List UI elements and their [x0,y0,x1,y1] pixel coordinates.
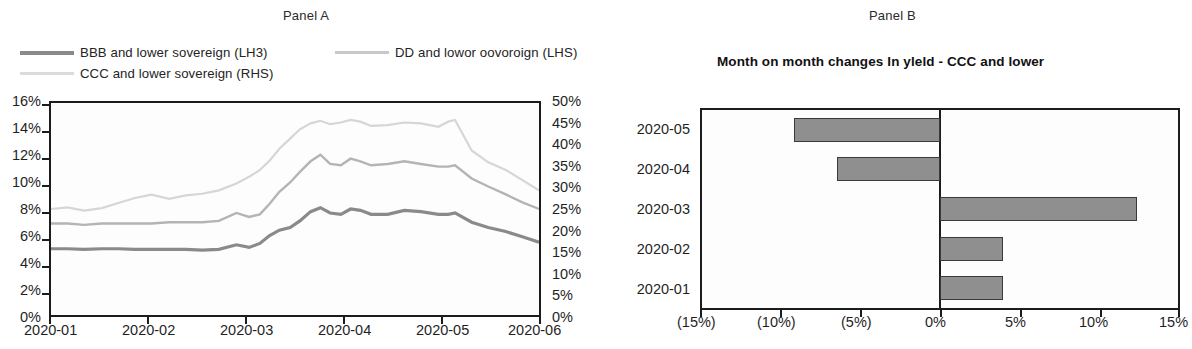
xb-tick-10: 10% [1079,314,1108,330]
right-tick-50: 50% [552,94,581,109]
panel-a-left-axis: 16% 14% 12% 10% 8% 6% 4% 2% 0% [0,94,44,326]
cat-label-2020-03: 2020-03 [637,202,690,217]
legend-swatch-ccc-icon [20,72,74,75]
panel-b-category-axis: 2020-05 2020-04 2020-03 2020-02 2020-01 [620,108,698,310]
panel-a-label: Panel A [283,8,329,23]
right-tick-30: 30% [552,180,581,195]
panel-b-plot-area [700,108,1180,310]
x-tick-2020-05: 2020-05 [416,322,469,338]
panel-b-x-axis: (15%) (10%) (5%) 0% 5% 10% 15% [620,314,1192,340]
bar-2020-04 [837,157,940,181]
panel-a-lines [51,103,539,315]
left-tick-6: 6% [20,229,41,244]
left-tick-14: 14% [12,121,41,136]
x-tick-2020-06: 2020-06 [508,322,561,338]
left-tick-12: 12% [12,148,41,163]
xb-tick-5: 5% [1005,314,1026,330]
panel-b-title: Month on month changes In yleld - CCC an… [717,54,1044,69]
right-tick-10: 10% [552,267,581,282]
series-line-ccc [51,120,539,211]
left-tick-2: 2% [20,283,41,298]
x-tick-2020-02: 2020-02 [122,322,175,338]
bar-2020-05 [794,118,940,142]
xb-tick-neg5: (5%) [841,314,872,330]
x-tick-2020-01: 2020-01 [24,322,77,338]
series-line-bbb [51,208,539,250]
legend-label-ccc: CCC and lower sovereign (RHS) [80,66,273,81]
cat-label-2020-05: 2020-05 [637,122,690,137]
x-tick-2020-04: 2020-04 [318,322,371,338]
legend-swatch-bb-icon [335,51,389,54]
legend-label-bbb: BBB and lower sovereign (LH3) [80,45,268,60]
xb-tick-neg15: (15%) [677,314,716,330]
left-tick-16: 16% [12,94,41,109]
right-tick-5: 5% [552,288,573,303]
panel-a-plot-area [49,101,541,317]
legend-swatch-bbb-icon [20,51,74,55]
panel-a-right-axis: 50% 45% 40% 35% 30% 25% 20% 15% 10% 5% 0… [547,94,597,326]
bar-2020-01 [940,276,1003,300]
panel-b-label: Panel B [869,8,916,23]
legend-item-bb: DD and lowor oovoroign (LHS) [335,45,577,60]
legend-label-bb: DD and lowor oovoroign (LHS) [395,45,577,60]
right-tick-35: 35% [552,159,581,174]
xb-tick-neg10: (10%) [757,314,796,330]
right-tick-40: 40% [552,137,581,152]
bar-2020-03 [940,197,1137,221]
right-tick-45: 45% [552,116,581,131]
right-tick-20: 20% [552,224,581,239]
cat-label-2020-02: 2020-02 [637,242,690,257]
left-tick-10: 10% [12,175,41,190]
x-tick-2020-03: 2020-03 [220,322,273,338]
legend-item-bbb: BBB and lower sovereign (LH3) [20,45,268,60]
legend-item-ccc: CCC and lower sovereign (RHS) [20,66,273,81]
panel-b: Panel B Month on month changes In yleld … [620,0,1192,349]
left-tick-4: 4% [20,256,41,271]
xb-tick-15: 15% [1159,314,1188,330]
bar-2020-02 [940,237,1003,261]
panel-a: Panel A BBB and lower sovereign (LH3) DD… [0,0,600,349]
right-tick-15: 15% [552,245,581,260]
xb-tick-0: 0% [925,314,946,330]
right-tick-25: 25% [552,202,581,217]
cat-label-2020-04: 2020-04 [637,162,690,177]
panel-a-x-axis: 2020-01 2020-02 2020-03 2020-04 2020-05 … [0,322,600,346]
cat-label-2020-01: 2020-01 [637,282,690,297]
figure-root: Panel A BBB and lower sovereign (LH3) DD… [0,0,1192,349]
series-line-bb [51,155,539,225]
left-tick-8: 8% [20,202,41,217]
